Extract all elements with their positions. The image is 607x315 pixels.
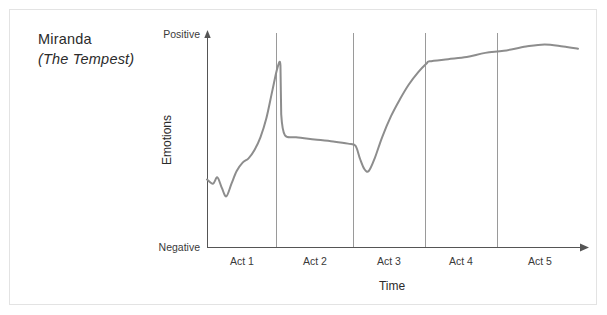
x-axis [207,244,589,252]
act-divider-lines [277,33,498,247]
y-axis-label-negative: Negative [159,241,201,253]
y-axis [204,30,210,247]
x-tick-label-act-5: Act 5 [528,255,552,267]
y-axis-title: Emotions [160,115,174,165]
x-tick-label-act-4: Act 4 [449,255,473,267]
x-tick-label-act-3: Act 3 [377,255,401,267]
x-axis-title: Time [379,279,406,293]
x-tick-label-act-1: Act 1 [230,255,254,267]
emotion-arc-chart: Positive Negative Emotions Act 1 Act 2 A… [0,0,607,315]
x-tick-label-act-2: Act 2 [303,255,327,267]
screenshot-canvas: Miranda (The Tempest) Positive Negative … [0,0,607,315]
y-axis-label-positive: Positive [163,28,200,40]
emotion-arc-line [207,44,578,196]
